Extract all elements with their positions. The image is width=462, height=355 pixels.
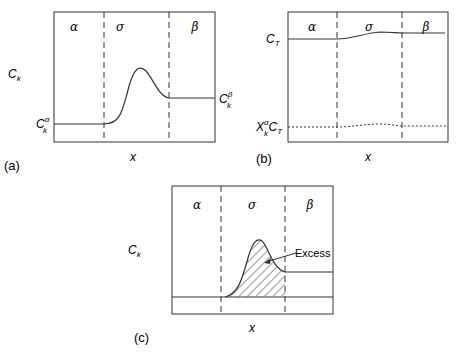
region-sigma-label: σ — [365, 20, 374, 34]
component-curve — [288, 124, 448, 127]
figure: α σ β Ck Cα k Cβ k x (a) α σ β CT XαCT k… — [0, 0, 462, 355]
region-alpha-label: α — [70, 20, 78, 34]
y-axis-label: Ck — [8, 67, 22, 83]
region-alpha-label: α — [193, 198, 201, 212]
panel-a-tag: (a) — [4, 158, 20, 173]
panel-c-tag: (c) — [134, 330, 149, 345]
x-axis-label: x — [129, 150, 137, 164]
x-axis-label: x — [248, 321, 256, 335]
region-alpha-label: α — [308, 20, 316, 34]
region-beta-label: β — [191, 20, 199, 34]
y-axis-label: Ck — [128, 243, 142, 259]
panel-b-tag: (b) — [256, 151, 272, 166]
region-sigma-label: σ — [116, 20, 125, 34]
region-beta-label: β — [422, 20, 430, 34]
component-label: XαCT — [255, 118, 283, 136]
region-sigma-label: σ — [248, 198, 257, 212]
right-value-sub: k — [227, 101, 232, 110]
left-value-sub: k — [43, 126, 48, 135]
region-beta-label: β — [306, 198, 314, 212]
excess-area — [225, 240, 285, 297]
total-concentration-label: CT — [266, 32, 281, 48]
excess-annotation: Excess — [295, 247, 331, 259]
concentration-curve — [54, 68, 215, 124]
x-axis-label: x — [364, 150, 372, 164]
